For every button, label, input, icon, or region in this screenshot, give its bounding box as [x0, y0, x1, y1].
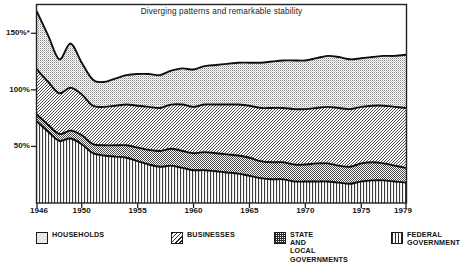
legend-label-1: BUSINESSES — [187, 231, 235, 239]
legend-item-0[interactable]: HOUSEHOLDS — [36, 231, 104, 244]
households-swatch-icon — [36, 232, 48, 244]
x-axis-label-1960: 1960 — [184, 206, 202, 215]
y-axis-label-100: 100% — [2, 85, 30, 94]
legend-label-2: STATE AND LOCAL GOVERNMENTS — [290, 231, 348, 264]
y-axis-label-150: 150%* — [2, 28, 30, 37]
legend-label-3: FEDERAL GOVERNMENT — [407, 231, 460, 247]
y-axis-labels: 50%100%150%* — [0, 0, 30, 271]
y-axis-label-50: 50% — [2, 141, 30, 150]
x-axis-label-1970: 1970 — [296, 206, 314, 215]
x-axis-label-1965: 1965 — [240, 206, 258, 215]
x-axis-label-1975: 1975 — [352, 206, 370, 215]
x-axis-label-1950: 1950 — [73, 206, 91, 215]
x-axis-label-1979: 1979 — [394, 206, 412, 215]
x-axis-label-1955: 1955 — [129, 206, 147, 215]
legend-item-3[interactable]: FEDERAL GOVERNMENT — [391, 231, 460, 247]
state-local-swatch-icon — [274, 232, 286, 244]
x-axis-ticks — [37, 203, 406, 208]
legend-item-2[interactable]: STATE AND LOCAL GOVERNMENTS — [274, 231, 348, 264]
businesses-swatch-icon — [171, 232, 183, 244]
legend-item-1[interactable]: BUSINESSES — [171, 231, 235, 244]
x-axis-label-1946: 1946 — [30, 206, 48, 215]
legend-label-0: HOUSEHOLDS — [52, 231, 104, 239]
area-band-3 — [37, 12, 406, 109]
federal-swatch-icon — [391, 232, 403, 244]
chart-title: Diverging patterns and remarkable stabil… — [36, 7, 407, 16]
chart-legend: HOUSEHOLDSBUSINESSESSTATE AND LOCAL GOVE… — [36, 231, 411, 271]
plot-areas — [37, 12, 406, 203]
